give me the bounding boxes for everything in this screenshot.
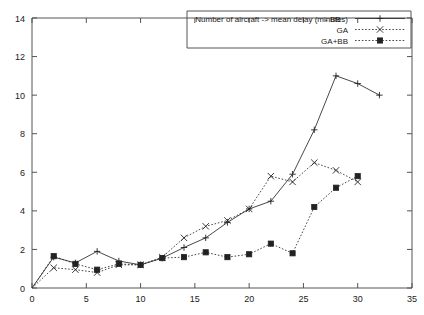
datapoint-bb-3 <box>94 248 100 254</box>
datapoint-ga+bb-8 <box>203 250 208 255</box>
x-tick-label-30: 30 <box>353 294 363 304</box>
x-tick-label-5: 5 <box>84 294 89 304</box>
datapoint-ga+bb-9 <box>225 255 230 260</box>
chart-axes <box>32 18 412 288</box>
datapoint-ga+bb-13 <box>312 204 317 209</box>
x-axis-tick-labels: 05101520253035 <box>29 294 417 304</box>
y-tick-label-2: 2 <box>20 245 25 255</box>
y-tick-label-0: 0 <box>20 284 25 294</box>
datapoint-ga-12 <box>289 179 295 185</box>
chart-container: 05101520253035 02468101214 Number of air… <box>0 0 424 315</box>
datapoint-ga+bb-2 <box>73 261 78 266</box>
datapoint-ga-11 <box>268 173 274 179</box>
datapoint-ga+bb-4 <box>116 261 121 266</box>
datapoint-bb-16 <box>376 92 382 98</box>
x-tick-label-25: 25 <box>298 294 308 304</box>
datapoint-ga+bb-10 <box>247 252 252 257</box>
series-path-ga+bb <box>32 176 358 288</box>
legend-label-bb: - BB <box>325 15 341 24</box>
x-tick-label-0: 0 <box>29 294 34 304</box>
datapoint-ga+bb-12 <box>290 251 295 256</box>
datapoint-ga-8 <box>203 223 209 229</box>
datapoint-bb-7 <box>181 244 187 250</box>
x-tick-label-10: 10 <box>136 294 146 304</box>
x-tick-label-15: 15 <box>190 294 200 304</box>
x-tick-label-20: 20 <box>244 294 254 304</box>
y-tick-label-12: 12 <box>15 52 25 62</box>
y-tick-label-4: 4 <box>20 206 25 216</box>
y-tick-label-10: 10 <box>15 91 25 101</box>
datapoint-ga+bb-14 <box>333 185 338 190</box>
plot-frame <box>32 18 412 288</box>
datapoint-ga+bb-5 <box>138 262 143 267</box>
series-path-bb <box>32 76 379 288</box>
datapoint-bb-14 <box>333 73 339 79</box>
series-ga <box>32 159 361 288</box>
datapoint-ga+bb-15 <box>355 174 360 179</box>
datapoint-ga-13 <box>311 159 317 165</box>
y-tick-label-14: 14 <box>15 14 25 24</box>
datapoint-ga-14 <box>333 167 339 173</box>
legend-marker-ga+bb <box>377 38 382 43</box>
legend-label-ga+bb: GA+BB <box>321 37 348 46</box>
y-axis-tick-labels: 02468101214 <box>15 14 25 294</box>
datapoint-ga+bb-6 <box>160 256 165 261</box>
series-ga-plus-bb <box>32 174 360 288</box>
legend-marker-bb <box>377 15 383 21</box>
series-path-ga <box>32 163 358 288</box>
datapoint-ga-7 <box>181 235 187 241</box>
datapoint-bb-13 <box>311 127 317 133</box>
series-bb <box>32 73 383 288</box>
y-tick-label-8: 8 <box>20 129 25 139</box>
datapoint-ga+bb-1 <box>51 254 56 259</box>
x-tick-label-35: 35 <box>407 294 417 304</box>
datapoint-ga-15 <box>355 179 361 185</box>
datapoint-ga-2 <box>72 266 78 272</box>
datapoint-bb-15 <box>355 80 361 86</box>
y-tick-label-6: 6 <box>20 168 25 178</box>
datapoint-ga+bb-3 <box>95 267 100 272</box>
datapoint-ga+bb-11 <box>268 241 273 246</box>
datapoint-bb-8 <box>203 235 209 241</box>
legend-label-ga: GA <box>336 26 348 35</box>
chart-series-group <box>32 73 383 288</box>
line-chart: 05101520253035 02468101214 Number of air… <box>0 0 424 315</box>
datapoint-ga+bb-7 <box>181 255 186 260</box>
chart-legend: Number of aircraft -> mean delay (minute… <box>187 11 411 48</box>
